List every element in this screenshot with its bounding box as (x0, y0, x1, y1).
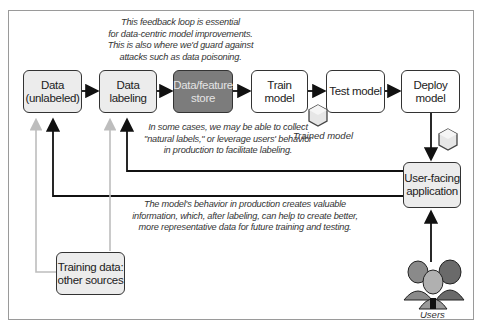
users-icon (404, 260, 464, 309)
node-user-facing-application-label: User-facing application (404, 172, 460, 198)
users-label: Users (420, 309, 445, 320)
node-data-unlabeled-label: Data (unlabeled) (25, 79, 79, 105)
node-data-labeling-label: Data labeling (109, 79, 146, 105)
node-training-data-other-sources-label: Training data: other sources (58, 261, 124, 287)
node-user-facing-application: User-facing application (403, 162, 461, 208)
middle-labels-note: In some cases, we may be able to collect… (133, 122, 323, 157)
node-deploy-model-label: Deploy model (414, 79, 448, 105)
node-training-data-other-sources: Training data: other sources (56, 252, 125, 295)
node-test-model-label: Test model (329, 85, 382, 98)
node-deploy-model: Deploy model (401, 70, 460, 113)
bottom-production-note: The model's behavior in production creat… (115, 199, 375, 234)
top-feedback-note: This feedback loop is essential for data… (88, 17, 273, 63)
node-data-unlabeled: Data (unlabeled) (23, 70, 82, 113)
node-train-model-label: Train model (252, 79, 307, 105)
node-train-model: Train model (251, 70, 308, 113)
node-data-labeling: Data labeling (99, 70, 157, 113)
deployed-model-cube-icon (439, 129, 457, 150)
node-feature-store-label: Data/feature store (173, 79, 233, 105)
node-test-model: Test model (326, 70, 385, 113)
node-feature-store: Data/feature store (173, 70, 233, 113)
